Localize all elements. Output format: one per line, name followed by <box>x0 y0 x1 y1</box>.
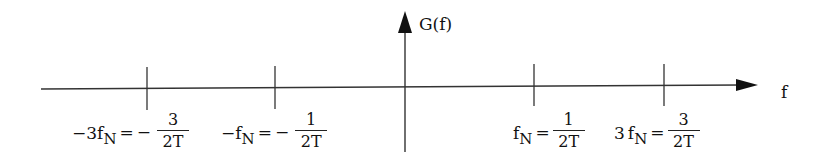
fraction: 1 2T <box>295 112 327 150</box>
rhs-sign: − <box>275 120 289 142</box>
sign: − <box>72 123 86 143</box>
equals-sign: = <box>650 120 664 142</box>
fraction: 3 2T <box>668 112 700 150</box>
sign: − <box>221 123 235 143</box>
coefficient: 3 <box>86 123 97 143</box>
numerator: 1 <box>553 112 585 131</box>
numerator: 3 <box>668 112 700 131</box>
subscript: N <box>634 130 647 148</box>
denominator: 2T <box>301 131 322 150</box>
rhs-sign: − <box>137 120 151 142</box>
subscript: N <box>242 130 255 148</box>
equals-sign: = <box>258 120 272 142</box>
tick-label-fN: f N = 1 2T <box>513 112 585 150</box>
fraction: 1 2T <box>553 112 585 150</box>
tick-label-3fN: 3 f N = 3 2T <box>614 112 700 150</box>
vertical-axis-arrow-icon <box>398 11 412 33</box>
vertical-axis-label: G(f) <box>419 16 452 33</box>
equals-sign: = <box>535 120 549 142</box>
denominator: 2T <box>558 131 579 150</box>
numerator: 3 <box>157 112 189 131</box>
horizontal-axis-line <box>41 85 740 89</box>
tick-label-minus-fN: − f N = − 1 2T <box>221 112 327 150</box>
numerator: 1 <box>295 112 327 131</box>
tick-lhs: f N <box>513 119 532 143</box>
equals-sign: = <box>120 120 134 142</box>
subscript: N <box>519 130 532 148</box>
fraction: 3 2T <box>157 112 189 150</box>
denominator: 2T <box>163 131 184 150</box>
tick-lhs: − 3 f N <box>72 119 117 143</box>
tick-lhs: − f N <box>221 119 255 143</box>
tick-label-minus-3fN: − 3 f N = − 3 2T <box>72 112 189 150</box>
tick-lhs: 3 f N <box>614 119 647 143</box>
horizontal-axis-arrow-icon <box>736 79 758 91</box>
denominator: 2T <box>673 131 694 150</box>
subscript: N <box>103 130 116 148</box>
coefficient: 3 <box>614 123 625 143</box>
horizontal-axis-label: f <box>781 84 787 101</box>
